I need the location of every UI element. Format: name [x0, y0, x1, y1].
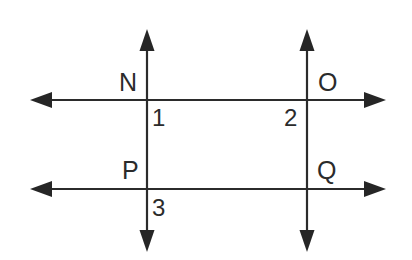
arrowhead-left-bottom [30, 181, 52, 197]
arrowhead-up-left [140, 29, 155, 51]
point-label-q: Q [317, 158, 336, 183]
diagram-canvas [0, 0, 412, 260]
arrowhead-right-top [364, 92, 386, 108]
arrowhead-down-left [140, 230, 155, 252]
point-label-p: P [122, 158, 139, 183]
angle-label-1: 1 [152, 106, 165, 130]
arrowhead-left-top [30, 92, 52, 108]
arrowhead-up-right [300, 29, 315, 51]
line-vertical-right [300, 29, 315, 252]
angle-label-2: 2 [284, 106, 297, 130]
point-label-n: N [119, 70, 137, 95]
geometry-diagram: N O P Q 1 2 3 [0, 0, 412, 260]
arrowhead-down-right [300, 230, 315, 252]
point-label-o: O [318, 70, 337, 95]
arrowhead-right-bottom [364, 181, 386, 197]
angle-label-3: 3 [152, 196, 165, 220]
